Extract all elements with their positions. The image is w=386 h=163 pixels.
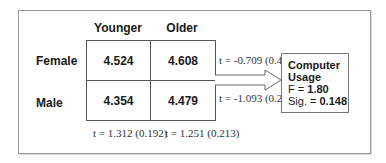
cell-male-older: 4.479 bbox=[150, 80, 216, 121]
sig-label: Sig. = bbox=[288, 95, 320, 107]
cell-female-older: 4.608 bbox=[150, 40, 216, 81]
sig-value: 0.148 bbox=[320, 95, 348, 107]
t-test-older: t = 1.251 (0.213) bbox=[165, 127, 239, 139]
arrow-right-icon bbox=[215, 69, 283, 91]
f-statistic: F = 1.80 bbox=[288, 83, 348, 95]
row-header-female: Female bbox=[36, 54, 77, 68]
f-label: F = bbox=[288, 83, 307, 95]
f-value: 1.80 bbox=[307, 83, 328, 95]
column-header-older: Older bbox=[150, 21, 214, 35]
outcome-title-line2: Usage bbox=[288, 71, 348, 83]
significance: Sig. = 0.148 bbox=[288, 95, 348, 107]
row-header-male: Male bbox=[36, 96, 63, 110]
computer-usage-box: Computer Usage F = 1.80 Sig. = 0.148 bbox=[281, 53, 349, 113]
t-test-younger: t = 1.312 (0.192) bbox=[93, 127, 167, 139]
column-header-younger: Younger bbox=[86, 21, 150, 35]
outcome-title-line1: Computer bbox=[288, 59, 348, 71]
cell-male-younger: 4.354 bbox=[86, 80, 151, 121]
cell-female-younger: 4.524 bbox=[86, 40, 151, 81]
